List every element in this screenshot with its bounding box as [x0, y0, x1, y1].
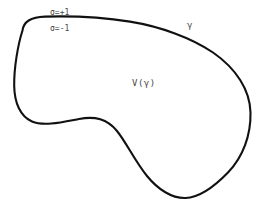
sigma-minus-label: σ=-1 — [50, 25, 69, 33]
sigma-plus-label: σ=+1 — [50, 9, 69, 17]
contour-figure: σ=+1 σ=-1 γ V(γ) — [0, 0, 272, 212]
curve-canvas — [0, 0, 272, 212]
interior-region-label: V(γ) — [132, 79, 156, 88]
gamma-contour-path — [14, 16, 250, 198]
gamma-curve-label: γ — [187, 21, 192, 30]
